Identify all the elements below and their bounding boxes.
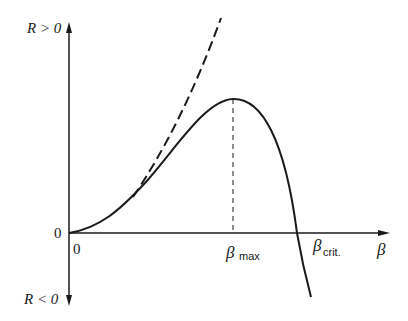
y-axis-up-arrow-icon bbox=[66, 22, 72, 33]
x-axis-arrow-icon bbox=[378, 230, 390, 236]
solid-curve bbox=[69, 99, 311, 297]
beta-max-symbol: β bbox=[225, 243, 235, 262]
y-positive-label: R > 0 bbox=[26, 20, 62, 36]
y-axis-down-arrow-icon bbox=[66, 295, 72, 306]
diagram-canvas: R > 0 R < 0 0 0 β max β crit. β bbox=[0, 0, 408, 321]
x-axis-symbol: β bbox=[376, 240, 386, 259]
beta-max-subscript: max bbox=[239, 250, 260, 262]
beta-crit-symbol: β bbox=[312, 236, 322, 255]
dashed-asymptote bbox=[133, 18, 221, 197]
y-negative-label: R < 0 bbox=[23, 291, 59, 307]
beta-crit-subscript: crit. bbox=[323, 246, 341, 258]
y-origin-label: 0 bbox=[54, 225, 62, 241]
x-origin-label: 0 bbox=[73, 241, 81, 257]
